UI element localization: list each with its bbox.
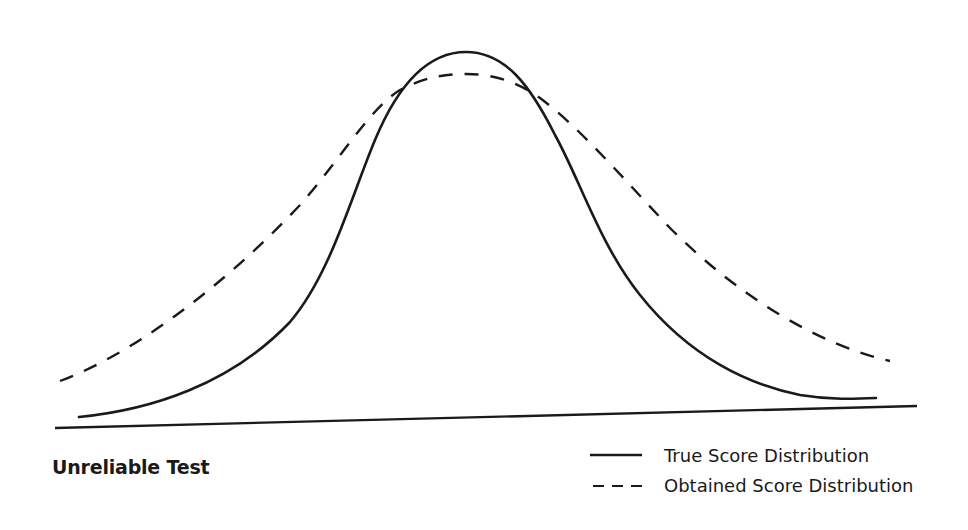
true-score-curve bbox=[79, 52, 876, 417]
dashed-line-swatch-icon bbox=[590, 475, 642, 495]
obtained-score-curve bbox=[60, 74, 890, 381]
figure-title: Unreliable Test bbox=[52, 456, 209, 478]
legend: True Score Distribution Obtained Score D… bbox=[590, 440, 913, 500]
legend-item-obtained-score: Obtained Score Distribution bbox=[590, 470, 913, 500]
legend-label-obtained-score: Obtained Score Distribution bbox=[664, 475, 913, 496]
solid-line-swatch-icon bbox=[590, 445, 642, 465]
legend-item-true-score: True Score Distribution bbox=[590, 440, 913, 470]
baseline-axis bbox=[55, 406, 917, 428]
legend-label-true-score: True Score Distribution bbox=[664, 445, 869, 466]
